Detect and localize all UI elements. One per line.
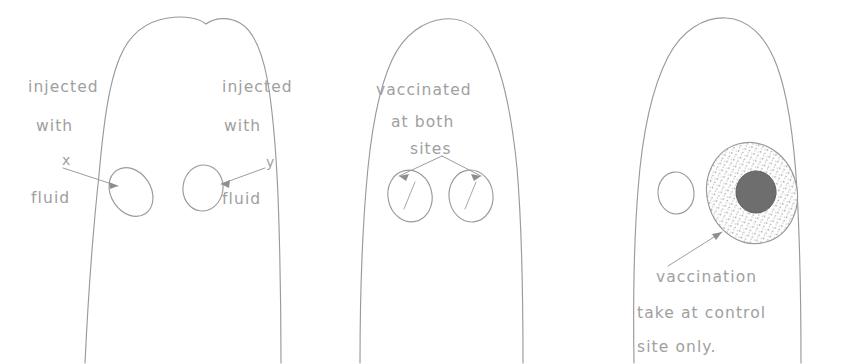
panel-middle-site-right (446, 168, 495, 224)
arrow-vaccination-to-lesion (668, 232, 722, 266)
label-right-vaccination: vaccination (656, 268, 757, 286)
label-left-injected: injected (28, 78, 99, 96)
label-middle-vaccinated: vaccinated (376, 81, 472, 99)
label-left-with: with (36, 117, 73, 135)
label-middle-at-both: at both (391, 113, 454, 131)
panel-right-test-site (656, 171, 696, 216)
label-right-take-at-control: take at control (637, 304, 766, 322)
label-right-injected: injected (222, 78, 293, 96)
label-right-fluid: fluid (222, 190, 261, 208)
panel-middle-site-left (383, 166, 437, 226)
panel-left-site-y (180, 162, 226, 213)
label-right-marker-y: y (266, 154, 275, 170)
label-right-site-only: site only. (637, 338, 716, 356)
label-right-with: with (224, 117, 261, 135)
label-left-fluid: fluid (31, 189, 70, 207)
arrow-sites-to-left-vaccination (399, 156, 442, 181)
vaccination-diagram-figure: injected with x fluid injected with y fl… (0, 0, 859, 364)
arrow-y-to-right-site (221, 168, 265, 188)
panel-right-control-site-lesion (695, 132, 810, 255)
panel-left-site-x (100, 159, 162, 224)
diagram-canvas: injected with x fluid injected with y fl… (0, 0, 859, 364)
label-left-marker-x: x (62, 152, 71, 168)
panel-middle-arm-outline (360, 19, 523, 363)
arrow-sites-to-right-vaccination (442, 156, 481, 181)
label-middle-sites: sites (410, 140, 452, 158)
